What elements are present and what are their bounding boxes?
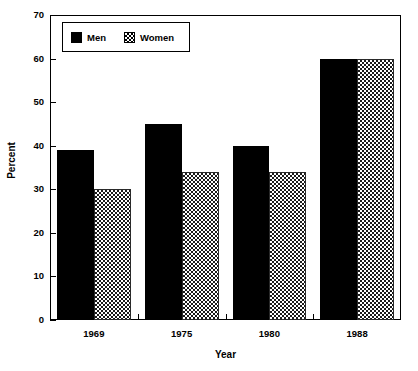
y-tick-label: 40 [18,141,44,151]
bar-women-1975 [182,172,219,320]
legend-label-women: Women [140,32,174,43]
x-tick-mark [313,314,314,320]
bar-men-1988 [320,59,357,320]
legend-item-men: Men [71,32,106,43]
y-tick-label: 50 [18,97,44,107]
legend-label-men: Men [87,32,106,43]
y-axis-title-text: Percent [6,142,17,179]
bar-women-1969 [94,189,131,320]
y-tick-mark [50,233,56,234]
y-tick-label: 0 [18,315,44,325]
x-tick-label: 1988 [327,329,387,339]
y-tick-mark [50,276,56,277]
y-tick-mark [50,320,56,321]
y-tick-mark [50,15,56,16]
y-tick-label: 30 [18,185,44,195]
bar-men-1969 [57,150,94,320]
y-tick-label: 10 [18,272,44,282]
y-tick-label: 70 [18,10,44,20]
bar-women-1980 [269,172,306,320]
x-tick-mark [226,314,227,320]
bar-women-1988 [357,59,394,320]
legend: Men Women [62,22,190,52]
x-tick-label: 1975 [152,329,212,339]
bar-men-1975 [145,124,182,320]
bar-men-1980 [233,146,270,320]
y-tick-label: 20 [18,228,44,238]
bar-chart: Percent 010203040506070 1969197519801988… [0,0,418,371]
x-axis-title: Year [50,349,401,360]
y-tick-label: 60 [18,54,44,64]
x-tick-mark [138,314,139,320]
legend-swatch-women-icon [124,32,135,43]
legend-swatch-men-icon [71,32,82,43]
y-tick-mark [50,189,56,190]
y-tick-mark [50,59,56,60]
x-tick-label: 1980 [239,329,299,339]
x-tick-label: 1969 [64,329,124,339]
y-tick-mark [50,102,56,103]
legend-item-women: Women [124,32,174,43]
y-tick-mark [50,146,56,147]
